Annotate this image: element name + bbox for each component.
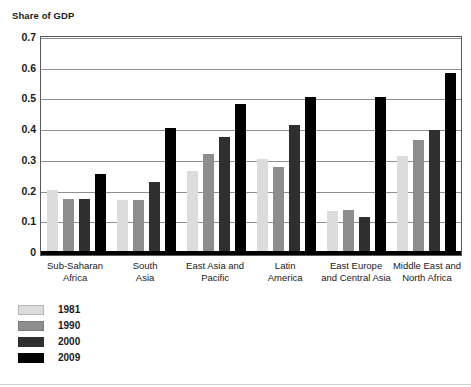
x-axis-category-line: Asia: [111, 272, 179, 284]
bar: [343, 210, 354, 252]
bar: [165, 128, 176, 251]
bar-group: [111, 37, 181, 255]
y-axis-tick-label: 0.3: [21, 155, 36, 166]
x-axis-category-label: Sub-SaharanAfrica: [40, 260, 110, 294]
x-axis-category-line: East Asia and: [181, 260, 249, 272]
legend-label: 1990: [58, 320, 80, 331]
y-axis-tick-labels: 0.70.60.50.40.30.20.10: [0, 36, 36, 256]
legend-label: 2000: [58, 336, 80, 347]
bar-group: [391, 37, 461, 255]
x-axis-baseline: [41, 251, 461, 255]
x-axis-category-label: LatinAmerica: [250, 260, 320, 294]
bar: [429, 130, 440, 251]
x-axis-category-line: Sub-Saharan: [41, 260, 109, 272]
bar: [95, 174, 106, 251]
bar: [187, 171, 198, 251]
bar: [289, 125, 300, 251]
y-axis-tick-label: 0.4: [21, 124, 36, 135]
bar: [47, 190, 58, 251]
x-axis-category-line: South: [111, 260, 179, 272]
legend-swatch-1981: [18, 305, 44, 315]
bar: [273, 167, 284, 252]
bar: [79, 199, 90, 251]
x-axis-category-label: East Europeand Central Asia: [320, 260, 392, 294]
bar: [133, 200, 144, 251]
legend-swatch-2000: [18, 337, 44, 347]
y-axis-tick-label: 0: [30, 247, 36, 258]
y-axis-tick-label: 0.5: [21, 93, 36, 104]
x-axis-category-line: East Europe: [321, 260, 391, 272]
legend-item: 2000: [18, 336, 80, 347]
bar: [327, 211, 338, 251]
chart-figure: Share of GDP 0.70.60.50.40.30.20.10 Sub-…: [0, 0, 471, 387]
x-axis-category-line: North Africa: [393, 272, 461, 284]
bar: [219, 137, 230, 251]
bar: [117, 200, 128, 251]
x-axis-category-line: Middle East and: [393, 260, 461, 272]
y-axis-tick-label: 0.1: [21, 216, 36, 227]
legend-item: 1981: [18, 304, 80, 315]
plot-area: [40, 36, 462, 256]
x-axis-category-line: America: [251, 272, 319, 284]
bar-group: [251, 37, 321, 255]
bar: [413, 140, 424, 251]
bar: [305, 97, 316, 251]
y-axis-tick-label: 0.7: [21, 32, 36, 43]
x-axis-category-line: Latin: [251, 260, 319, 272]
bottom-divider: [0, 384, 471, 385]
bar: [63, 199, 74, 251]
bar: [203, 154, 214, 251]
bar-group: [181, 37, 251, 255]
bar-groups: [41, 37, 461, 255]
chart-legend: 1981199020002009: [18, 304, 80, 363]
x-axis-category-labels: Sub-SaharanAfricaSouthAsiaEast Asia andP…: [40, 260, 462, 294]
legend-label: 2009: [58, 352, 80, 363]
x-axis-category-label: Middle East andNorth Africa: [392, 260, 462, 294]
bar: [257, 159, 268, 251]
legend-swatch-2009: [18, 353, 44, 363]
bar-group: [41, 37, 111, 255]
x-axis-category-line: and Central Asia: [321, 272, 391, 284]
legend-label: 1981: [58, 304, 80, 315]
x-axis-category-line: Africa: [41, 272, 109, 284]
bar: [149, 182, 160, 251]
bar: [235, 104, 246, 251]
y-axis-tick-label: 0.2: [21, 185, 36, 196]
legend-item: 1990: [18, 320, 80, 331]
x-axis-category-line: Pacific: [181, 272, 249, 284]
bar: [359, 217, 370, 251]
bar-group: [321, 37, 391, 255]
y-axis-tick-label: 0.6: [21, 62, 36, 73]
legend-item: 2009: [18, 352, 80, 363]
chart-title: Share of GDP: [12, 10, 74, 21]
bar: [397, 156, 408, 251]
x-axis-category-label: SouthAsia: [110, 260, 180, 294]
legend-swatch-1990: [18, 321, 44, 331]
bar: [375, 97, 386, 251]
bar: [445, 73, 456, 251]
x-axis-category-label: East Asia andPacific: [180, 260, 250, 294]
